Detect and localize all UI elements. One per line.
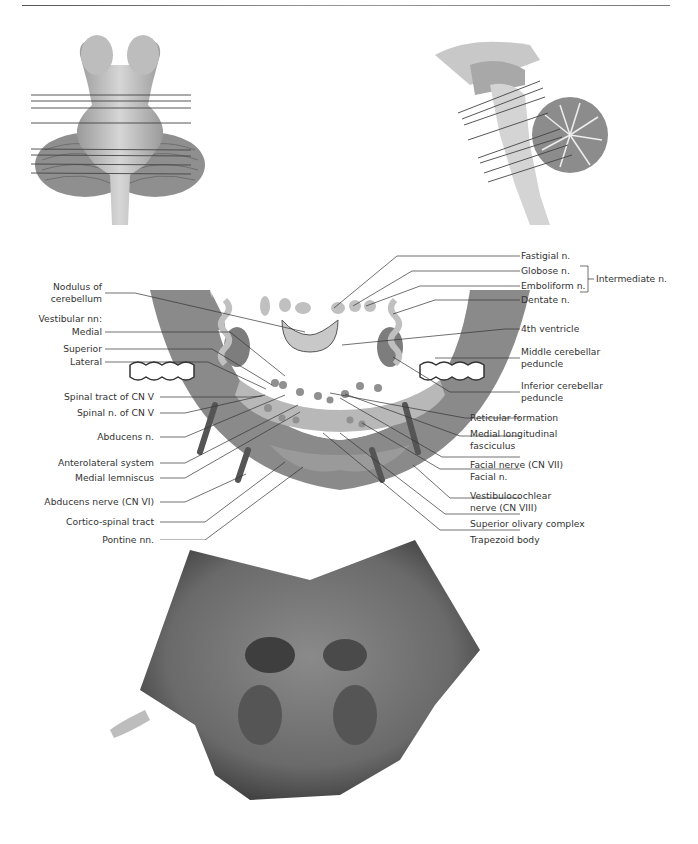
label-spinal-tract-cn-v: Spinal tract of CN V <box>64 391 154 403</box>
label-reticular-formation: Reticular formation <box>470 412 558 424</box>
label-vestibular-nn: Vestibular nn: <box>39 313 102 325</box>
label-facial-nerve-cn-vii: Facial nerve (CN VII) <box>470 459 563 471</box>
label-fastigial-n: Fastigial n. <box>521 250 570 262</box>
label-dentate-n: Dentate n. <box>521 294 570 306</box>
label-medial-longitudinal-fasciculus: Medial longitudinalfasciculus <box>470 428 557 452</box>
label-vestibulocochlear-nerve: Vestibulocochlearnerve (CN VIII) <box>470 490 551 514</box>
label-spinal-n-cn-v: Spinal n. of CN V <box>77 407 154 419</box>
label-middle-cerebellar-peduncle: Middle cerebellarpeduncle <box>521 346 600 370</box>
label-text: fasciculus <box>470 440 515 451</box>
label-text: Medial longitudinal <box>470 428 557 439</box>
stained-pons-section-photo <box>100 540 500 820</box>
label-inferior-cerebellar-peduncle: Inferior cerebellarpeduncle <box>521 380 603 404</box>
label-cortico-spinal-tract: Cortico-spinal tract <box>66 516 154 528</box>
label-abducens-n: Abducens n. <box>97 431 154 443</box>
label-vestibular-superior: Superior <box>63 343 102 355</box>
label-medial-lemniscus: Medial lemniscus <box>75 472 154 484</box>
label-nodulus-of-cerebellum: Nodulus ofcerebellum <box>51 281 102 305</box>
label-vestibular-medial: Medial <box>72 326 102 338</box>
label-facial-n: Facial n. <box>470 471 508 483</box>
label-text: nerve (CN VIII) <box>470 502 537 513</box>
label-intermediate-n: Intermediate n. <box>596 273 667 285</box>
label-abducens-nerve-cn-vi: Abducens nerve (CN VI) <box>44 496 154 508</box>
label-text: Vestibulocochlear <box>470 490 551 501</box>
label-text: cerebellum <box>51 293 102 304</box>
label-text: Inferior cerebellar <box>521 380 603 391</box>
label-4th-ventricle: 4th ventricle <box>521 323 579 335</box>
label-text: peduncle <box>521 358 563 369</box>
label-emboliform-n: Emboliform n. <box>521 280 585 292</box>
label-globose-n: Globose n. <box>521 265 570 277</box>
label-vestibular-lateral: Lateral <box>70 356 102 368</box>
label-text: Middle cerebellar <box>521 346 600 357</box>
label-text: Nodulus of <box>53 281 102 292</box>
label-anterolateral-system: Anterolateral system <box>58 457 154 469</box>
label-superior-olivary-complex: Superior olivary complex <box>470 518 585 530</box>
label-text: peduncle <box>521 392 563 403</box>
